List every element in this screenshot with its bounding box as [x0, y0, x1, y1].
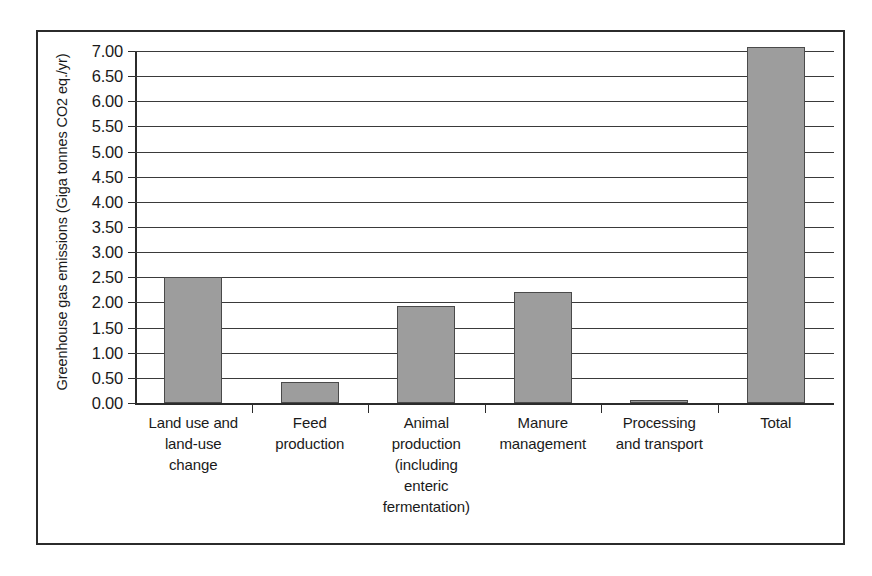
category-label-line: and transport	[601, 433, 718, 454]
category-label-line: production	[368, 433, 485, 454]
y-axis-tick	[128, 76, 135, 77]
y-axis-tick	[128, 328, 135, 329]
category-label-line: Animal	[368, 412, 485, 433]
category-label-line: Processing	[601, 412, 718, 433]
bar	[164, 277, 222, 403]
gridline	[135, 378, 834, 379]
y-axis-tick	[128, 177, 135, 178]
gridline	[135, 328, 834, 329]
y-axis-tick-label: 2.00	[92, 293, 123, 312]
y-axis-tick-label: 6.50	[92, 67, 123, 86]
category-label-line: (including	[368, 454, 485, 475]
y-axis-tick-label: 0.50	[92, 368, 123, 387]
category-label-line: Land use and	[135, 412, 252, 433]
bar	[397, 306, 455, 403]
category-label-line: Total	[718, 412, 835, 433]
bar	[514, 292, 572, 403]
y-axis-tick-label: 5.50	[92, 117, 123, 136]
y-axis-tick	[128, 101, 135, 102]
x-axis-category-label: Processingand transport	[601, 412, 718, 454]
x-axis-category-label: Total	[718, 412, 835, 433]
y-axis-tick	[128, 252, 135, 253]
y-axis-tick	[128, 277, 135, 278]
gridline	[135, 302, 834, 303]
x-axis-category-labels: Land use andland-usechangeFeedproduction…	[135, 412, 834, 542]
y-axis-tick-label: 1.00	[92, 343, 123, 362]
x-axis-category-label: Feedproduction	[252, 412, 369, 454]
y-axis-tick-label: 7.00	[92, 42, 123, 61]
x-axis-category-label: Manuremanagement	[485, 412, 602, 454]
y-axis-tick-label: 4.50	[92, 167, 123, 186]
bar	[281, 382, 339, 403]
y-axis-tick-label: 0.00	[92, 394, 123, 413]
y-axis-tick	[128, 302, 135, 303]
category-label-line: management	[485, 433, 602, 454]
category-label-line: fermentation)	[368, 496, 485, 517]
y-axis-tick-label: 1.50	[92, 318, 123, 337]
y-axis-tick-label: 6.00	[92, 92, 123, 111]
category-label-line: change	[135, 454, 252, 475]
category-label-line: production	[252, 433, 369, 454]
bar	[630, 400, 688, 403]
y-axis-tick	[128, 353, 135, 354]
y-axis-tick	[128, 126, 135, 127]
gridline	[135, 252, 834, 253]
y-axis-tick-label: 3.50	[92, 218, 123, 237]
bar	[747, 47, 805, 403]
y-axis-tick-label: 2.50	[92, 268, 123, 287]
y-axis-tick-label: 4.00	[92, 192, 123, 211]
gridline	[135, 202, 834, 203]
y-axis-tick	[128, 227, 135, 228]
category-label-line: land-use	[135, 433, 252, 454]
x-axis-category-label: Animalproduction(includingentericferment…	[368, 412, 485, 517]
y-axis-tick	[128, 403, 135, 404]
gridline	[135, 353, 834, 354]
y-axis-tick	[128, 378, 135, 379]
category-label-line: enteric	[368, 475, 485, 496]
x-axis-category-label: Land use andland-usechange	[135, 412, 252, 475]
gridline	[135, 152, 834, 153]
y-axis-tick-label: 5.00	[92, 142, 123, 161]
gridline	[135, 277, 834, 278]
plot-area: 7.006.506.005.505.004.504.003.503.002.50…	[135, 51, 834, 405]
gridline	[135, 227, 834, 228]
gridline	[135, 51, 834, 52]
y-axis-tick	[128, 202, 135, 203]
gridline	[135, 177, 834, 178]
y-axis-tick	[128, 152, 135, 153]
gridline	[135, 76, 834, 77]
category-label-line: Manure	[485, 412, 602, 433]
y-axis-tick-label: 3.00	[92, 243, 123, 262]
chart-figure-frame: Greenhouse gas emissions (Giga tonnes CO…	[36, 30, 845, 545]
category-label-line: Feed	[252, 412, 369, 433]
y-axis-tick	[128, 51, 135, 52]
y-axis-title: Greenhouse gas emissions (Giga tonnes CO…	[54, 27, 70, 417]
gridline	[135, 126, 834, 127]
gridline	[135, 101, 834, 102]
